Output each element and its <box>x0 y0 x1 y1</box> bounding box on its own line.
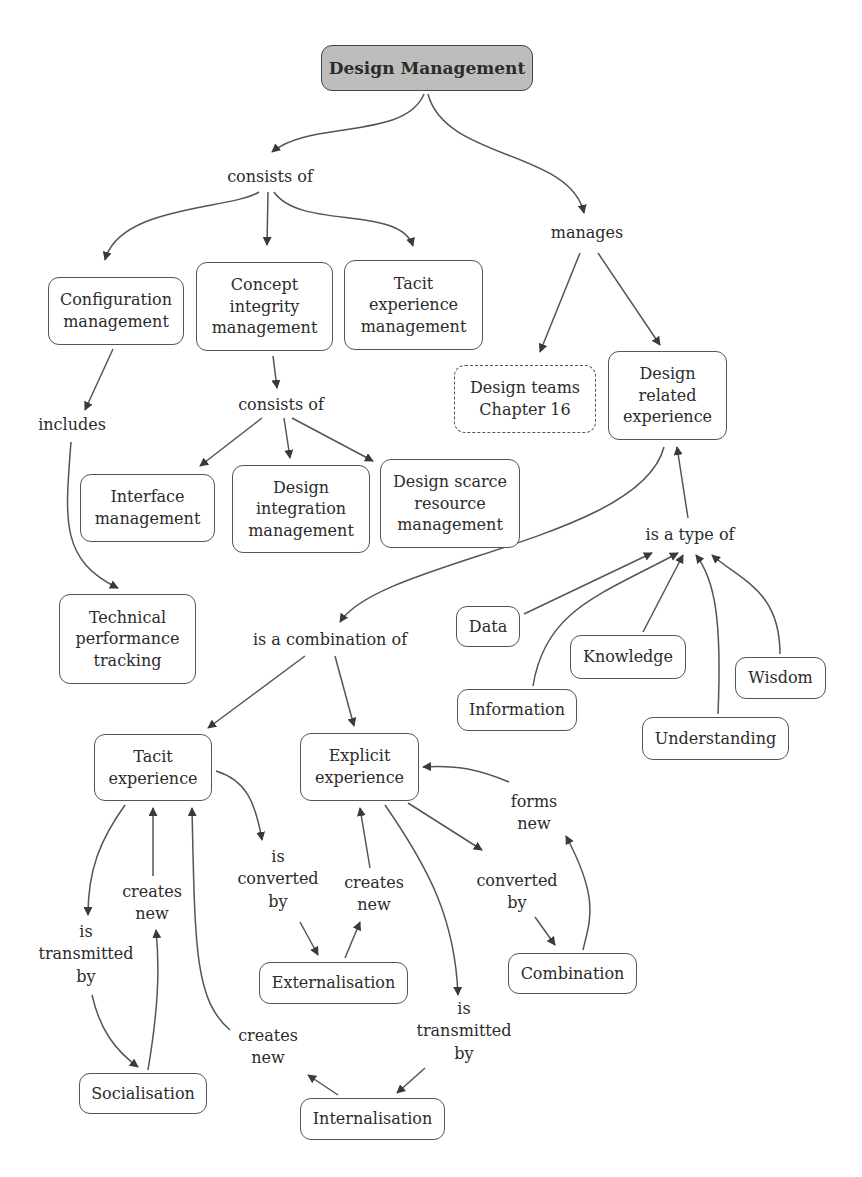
node-internalisation[interactable]: Internalisation <box>300 1098 445 1140</box>
link-creates-new-bottom: creates new <box>238 1025 298 1070</box>
edge-manages-related <box>598 253 660 345</box>
node-design-integration-management[interactable]: Design integration management <box>232 465 370 553</box>
edge-combination-forms <box>566 836 590 950</box>
link-is-transmitted-by-right: is transmitted by <box>417 998 512 1065</box>
link-forms-new: forms new <box>511 791 558 836</box>
node-externalisation[interactable]: Externalisation <box>259 962 408 1004</box>
node-design-teams[interactable]: Design teams Chapter 16 <box>454 365 596 433</box>
edge-concept-consistsmid <box>273 356 277 388</box>
edge-mid-interface <box>200 418 262 466</box>
link-manages: manages <box>551 222 623 244</box>
edge-explicit-converted <box>408 803 482 850</box>
node-explicit-experience[interactable]: Explicit experience <box>300 733 419 801</box>
edge-knowledge-type <box>643 555 683 632</box>
edge-config-includes <box>85 349 113 410</box>
node-technical-performance-tracking[interactable]: Technical performance tracking <box>59 594 196 684</box>
edge-converted-externalisation <box>300 922 318 955</box>
node-tacit-experience-management[interactable]: Tacit experience management <box>344 260 483 350</box>
node-information[interactable]: Information <box>457 689 577 731</box>
edge-consists-tacitmgmt <box>274 192 413 246</box>
node-data[interactable]: Data <box>456 606 520 647</box>
link-is-transmitted-by-left: is transmitted by <box>39 921 134 988</box>
edge-data-type <box>524 553 652 614</box>
link-creates-new-left: creates new <box>122 881 182 926</box>
edge-consists-concept <box>267 192 268 245</box>
link-includes: includes <box>38 414 106 436</box>
edge-externalisation-creates <box>345 922 360 958</box>
edge-internalisation-creates <box>308 1075 338 1095</box>
link-consists-of-mid: consists of <box>238 394 324 416</box>
node-tacit-experience[interactable]: Tacit experience <box>94 734 212 801</box>
node-design-scarce-resource-management[interactable]: Design scarce resource management <box>380 459 520 548</box>
link-is-a-type-of: is a type of <box>646 524 735 546</box>
edge-root-manages <box>428 94 584 213</box>
edge-type-related <box>677 447 688 518</box>
link-creates-new-mid: creates new <box>344 872 404 917</box>
edge-creates-tacit-long <box>192 808 230 1030</box>
link-is-a-combination-of: is a combination of <box>253 629 407 651</box>
node-socialisation[interactable]: Socialisation <box>79 1073 207 1114</box>
edge-mid-integration <box>284 418 290 458</box>
edge-combo-explicit <box>335 656 354 726</box>
link-consists-of-top: consists of <box>227 166 313 188</box>
node-design-management[interactable]: Design Management <box>321 45 533 91</box>
edge-creates-explicit <box>360 808 370 868</box>
node-wisdom[interactable]: Wisdom <box>735 657 826 699</box>
node-understanding[interactable]: Understanding <box>642 717 789 760</box>
node-combination[interactable]: Combination <box>508 953 637 994</box>
edge-transmitted-internalisation <box>397 1068 425 1093</box>
node-configuration-management[interactable]: Configuration management <box>48 277 184 345</box>
edge-root-consists <box>272 94 424 152</box>
edge-converted-combination <box>535 917 555 945</box>
edge-mid-scarce <box>292 418 373 461</box>
edge-combo-tacit <box>208 656 305 728</box>
edge-forms-explicit <box>423 767 509 782</box>
link-converted-by: converted by <box>476 870 557 915</box>
link-is-converted-by: is converted by <box>237 846 318 913</box>
edge-manages-teams <box>540 253 580 352</box>
edge-socialisation-creates <box>148 930 158 1070</box>
edge-transmitted-socialisation <box>92 995 138 1067</box>
edge-consists-config <box>105 192 259 260</box>
node-interface-management[interactable]: Interface management <box>80 474 215 542</box>
edge-tacit-transmitted <box>88 805 125 915</box>
edge-tacit-converted <box>216 771 262 840</box>
node-design-related-experience[interactable]: Design related experience <box>608 351 727 440</box>
node-concept-integrity-management[interactable]: Concept integrity management <box>196 262 333 351</box>
node-knowledge[interactable]: Knowledge <box>570 635 686 679</box>
edge-wisdom-type <box>712 555 780 654</box>
edge-understanding-type <box>696 555 719 714</box>
